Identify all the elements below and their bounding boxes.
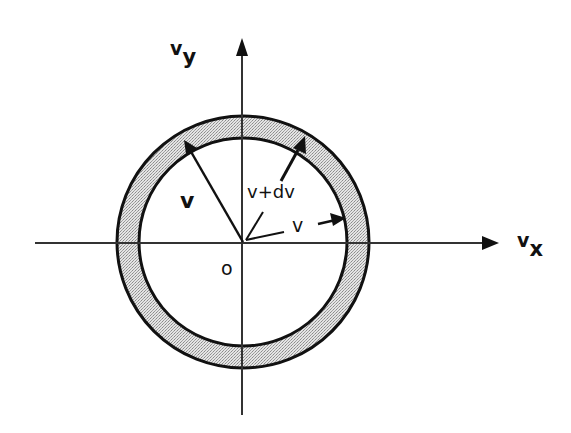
stub-to-v-label: [246, 232, 284, 240]
vector-v: [190, 150, 243, 242]
y-axis-label-subscript: y: [182, 45, 196, 69]
vector-v-plus-dv: [281, 150, 298, 181]
x-axis-label-subscript: x: [529, 237, 543, 261]
y-axis-arrow-icon: [236, 38, 248, 56]
stub-to-v-plus-dv-label: [246, 212, 263, 240]
origin-label: o: [221, 257, 233, 279]
x-axis-label-base: v: [517, 229, 529, 251]
y-axis-label-base: v: [170, 37, 182, 59]
radius-v-label: v: [292, 214, 303, 236]
y-axis-label: vy: [170, 36, 196, 60]
x-axis-label: vx: [517, 228, 543, 252]
vector-v-label: v: [180, 188, 194, 213]
x-axis-arrow-icon: [482, 236, 499, 250]
vector-v-plus-dv-label: v+dv: [247, 181, 295, 202]
velocity-shell-diagram: [0, 0, 571, 433]
